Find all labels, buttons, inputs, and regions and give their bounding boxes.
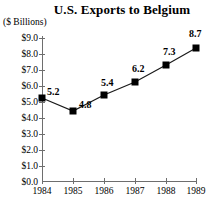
data-point-marker[interactable] [163, 62, 170, 69]
data-line [42, 48, 196, 111]
data-point-value-label: 5.4 [101, 78, 114, 88]
x-tick-label: 1985 [56, 186, 90, 196]
x-tick-label: 1989 [179, 186, 213, 196]
data-point-value-label: 7.3 [163, 47, 176, 57]
data-point-value-label: 8.7 [189, 29, 202, 39]
data-point-marker[interactable] [39, 95, 46, 102]
data-point-marker[interactable] [132, 79, 139, 86]
data-point-marker[interactable] [101, 92, 108, 99]
data-point-value-label: 5.2 [47, 87, 60, 97]
x-tick-label: 1988 [149, 186, 183, 196]
data-point-marker[interactable] [70, 108, 77, 115]
data-point-marker[interactable] [193, 45, 200, 52]
x-tick-label: 1987 [118, 186, 152, 196]
chart-container: U.S. Exports to Belgium ($ Billions) $9.… [0, 0, 218, 212]
plot-area [0, 0, 218, 212]
data-point-value-label: 4.8 [79, 100, 92, 110]
x-tick-label: 1986 [87, 186, 121, 196]
x-tick-label: 1984 [25, 186, 59, 196]
data-point-value-label: 6.2 [132, 64, 145, 74]
